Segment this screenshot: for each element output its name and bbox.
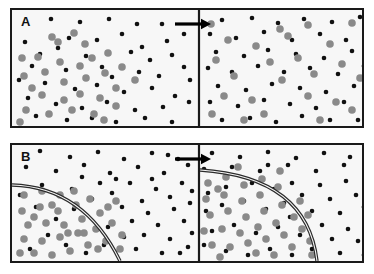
- solvent-particle: [220, 118, 225, 123]
- solute-particle: [70, 187, 78, 195]
- solvent-particle: [190, 189, 195, 194]
- solvent-particle: [298, 86, 303, 91]
- solute-particle: [230, 72, 238, 80]
- solute-particle: [20, 191, 28, 199]
- solvent-particle: [173, 94, 178, 99]
- solvent-particle: [110, 191, 115, 196]
- solvent-particle: [154, 187, 159, 192]
- solvent-particle: [214, 50, 219, 55]
- solvent-particle: [49, 17, 54, 22]
- solvent-particle: [130, 219, 135, 224]
- solute-particle: [252, 42, 260, 50]
- solute-particle: [116, 245, 124, 253]
- solute-particle: [236, 229, 244, 237]
- solvent-particle: [73, 87, 78, 92]
- solvent-particle: [150, 151, 155, 156]
- solvent-particle: [114, 120, 119, 125]
- solute-particle: [332, 98, 340, 106]
- solvent-particle: [342, 100, 347, 105]
- solvent-particle: [68, 155, 73, 160]
- solute-particle: [84, 241, 92, 249]
- solvent-particle: [134, 247, 139, 252]
- solvent-particle: [96, 150, 101, 155]
- solvent-particle: [136, 165, 141, 170]
- solvent-particle: [150, 177, 155, 182]
- solvent-particle: [208, 100, 213, 105]
- solvent-particle: [67, 36, 72, 41]
- solute-particle: [260, 110, 268, 118]
- solvent-particle: [26, 96, 31, 101]
- solvent-particle: [182, 32, 187, 37]
- solvent-particle: [236, 104, 241, 109]
- solute-particle: [82, 74, 90, 82]
- solvent-particle: [294, 156, 299, 161]
- solute-particle: [112, 102, 120, 110]
- solute-particle: [38, 237, 46, 245]
- solute-particle: [76, 90, 84, 98]
- solute-particle: [28, 84, 36, 92]
- solvent-particle: [107, 17, 112, 22]
- solvent-particle: [276, 21, 281, 26]
- solute-particle: [316, 116, 324, 124]
- solvent-particle: [232, 223, 237, 228]
- solute-particle: [54, 207, 62, 215]
- membrane-arc-right: [200, 170, 317, 261]
- solute-particle: [278, 201, 286, 209]
- solute-particle: [112, 84, 120, 92]
- solute-particle: [304, 21, 312, 29]
- solvent-particle: [266, 150, 271, 155]
- solvent-particle: [314, 106, 319, 111]
- solute-particle: [200, 227, 208, 235]
- solvent-particle: [98, 181, 103, 186]
- solvent-particle: [180, 181, 185, 186]
- solvent-particle: [135, 22, 140, 27]
- solvent-particle: [266, 48, 271, 53]
- solute-particle: [294, 54, 302, 62]
- solute-particle: [284, 32, 292, 40]
- solvent-particle: [95, 83, 100, 88]
- solvent-particle: [161, 105, 166, 110]
- solvent-particle: [356, 239, 361, 244]
- solvent-particle: [216, 84, 221, 89]
- solute-particle: [36, 203, 44, 211]
- solvent-particle: [354, 193, 359, 198]
- solvent-particle: [165, 39, 170, 44]
- solvent-particle: [188, 78, 193, 83]
- solvent-particle: [346, 227, 351, 232]
- solvent-particle: [234, 36, 239, 41]
- solute-particle: [310, 70, 318, 78]
- solvent-particle: [358, 15, 362, 20]
- solvent-particle: [262, 30, 267, 35]
- solute-particle: [118, 231, 126, 239]
- solute-particle: [78, 215, 86, 223]
- solvent-particle: [290, 253, 295, 258]
- solvent-particle: [308, 66, 313, 71]
- solvent-particle: [352, 84, 357, 89]
- solute-particle: [204, 179, 212, 187]
- solvent-particle: [137, 70, 142, 75]
- solvent-particle: [298, 233, 303, 238]
- solute-particle: [256, 191, 264, 199]
- solvent-particle: [314, 169, 319, 174]
- solute-particle: [18, 54, 26, 62]
- solute-particle: [48, 251, 56, 259]
- solute-particle: [131, 76, 139, 84]
- solvent-particle: [282, 70, 287, 75]
- solute-particle: [326, 40, 334, 48]
- solvent-particle: [64, 68, 69, 73]
- solute-particle: [45, 110, 53, 118]
- solvent-particle: [186, 163, 191, 168]
- solvent-particle: [202, 243, 207, 248]
- transfer-arrow-b: [175, 154, 211, 164]
- solute-particle: [220, 92, 228, 100]
- solvent-particle: [328, 197, 333, 202]
- solvent-particle: [286, 163, 291, 168]
- solvent-particle: [114, 177, 119, 182]
- solvent-particle: [224, 185, 229, 190]
- solute-particle: [56, 233, 64, 241]
- solvent-particle: [160, 22, 165, 27]
- solvent-particle: [258, 169, 263, 174]
- panel-a-right-small: [206, 15, 362, 125]
- solute-particle: [94, 245, 102, 253]
- panel-a: A: [10, 8, 364, 128]
